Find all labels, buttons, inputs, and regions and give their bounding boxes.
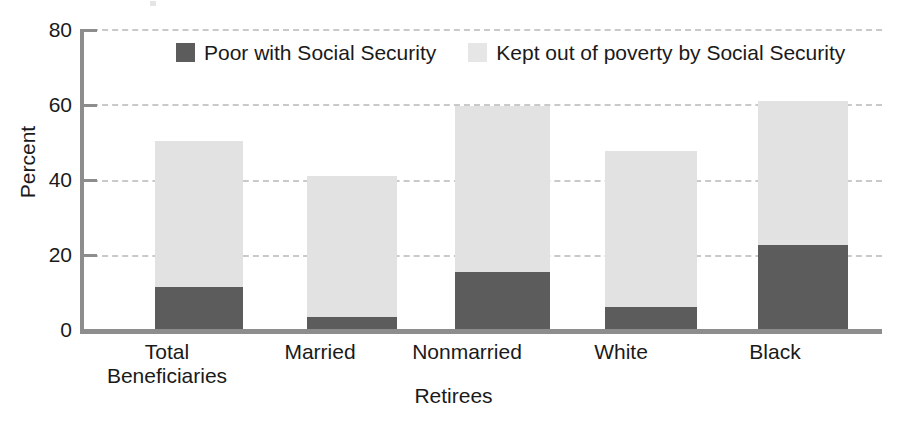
bar-total-beneficiaries[interactable]: [155, 141, 243, 330]
light-gray-swatch-icon: [468, 43, 487, 62]
bar-segment-kept-out-of-poverty: [455, 106, 550, 272]
stacked-bar-chart: 80 60 40 20 0 Percent Poor with Social S…: [0, 0, 907, 428]
x-tick-label-black: Black: [693, 340, 857, 364]
plot-area: [82, 29, 882, 330]
bar-segment-poor: [155, 287, 243, 330]
bar-nonmarried[interactable]: [455, 106, 550, 330]
bar-segment-kept-out-of-poverty: [758, 101, 848, 245]
y-axis-title: Percent: [16, 82, 40, 242]
x-tick-label-line-1: White: [539, 340, 703, 364]
y-tick-80: [84, 29, 97, 32]
y-tick-60: [84, 104, 97, 107]
x-tick-label-married: Married: [238, 340, 402, 364]
y-tick-label-20: 20: [32, 244, 72, 265]
x-tick-label-white: White: [539, 340, 703, 364]
bar-white[interactable]: [605, 151, 697, 330]
legend-item-poor[interactable]: Poor with Social Security: [176, 41, 436, 64]
bar-segment-kept-out-of-poverty: [605, 151, 697, 307]
x-tick-label-line-1: Married: [238, 340, 402, 364]
x-axis-line: [80, 329, 882, 334]
x-tick-label-total-beneficiaries: Total Beneficiaries: [85, 340, 249, 388]
x-tick-label-line-1: Nonmarried: [385, 340, 549, 364]
bar-black[interactable]: [758, 101, 848, 331]
x-tick-label-line-1: Black: [693, 340, 857, 364]
bar-segment-poor: [758, 245, 848, 330]
y-tick-40: [84, 179, 97, 182]
bar-segment-poor: [307, 317, 397, 330]
bar-segment-poor: [605, 307, 697, 330]
x-tick-label-nonmarried: Nonmarried: [385, 340, 549, 364]
bar-segment-kept-out-of-poverty: [155, 141, 243, 286]
legend-label-kept-out: Kept out of poverty by Social Security: [496, 41, 845, 64]
gridline-80: [82, 29, 882, 31]
y-tick-20: [84, 254, 97, 257]
x-tick-label-line-1: Total: [85, 340, 249, 364]
y-tick-label-0: 0: [32, 319, 72, 340]
bar-segment-kept-out-of-poverty: [307, 176, 397, 317]
bar-segment-poor: [455, 272, 550, 330]
legend-item-kept-out[interactable]: Kept out of poverty by Social Security: [468, 41, 845, 64]
x-axis-title: Retirees: [0, 384, 907, 408]
dark-gray-swatch-icon: [176, 43, 195, 62]
bar-married[interactable]: [307, 176, 397, 330]
scan-artifact: [150, 1, 156, 6]
legend-label-poor: Poor with Social Security: [204, 41, 436, 64]
y-tick-label-80: 80: [32, 19, 72, 40]
chart-legend: Poor with Social Security Kept out of po…: [176, 41, 845, 64]
